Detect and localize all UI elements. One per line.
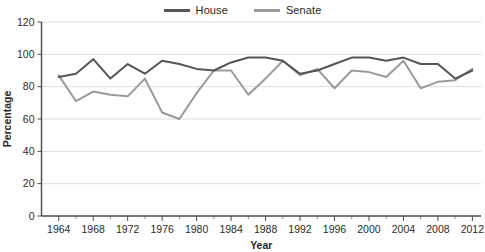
y-axis-title: Percentage (1, 91, 13, 148)
x-tick-label: 1964 (47, 223, 71, 235)
x-tick-label: 1992 (288, 223, 312, 235)
x-tick-label: 1976 (150, 223, 174, 235)
y-tick-label: 0 (29, 210, 35, 222)
series-line-house (59, 58, 473, 79)
x-tick-label: 2004 (392, 223, 416, 235)
series-lines (59, 58, 473, 119)
x-tick-label: 2012 (461, 223, 485, 235)
x-tick-label: 1980 (185, 223, 209, 235)
x-tick-label: 2000 (357, 223, 381, 235)
x-tick-label: 1972 (116, 223, 140, 235)
y-tick-label: 100 (17, 48, 35, 60)
y-tick-label: 120 (17, 16, 35, 28)
x-tick-label: 2008 (426, 223, 450, 235)
line-chart: House Senate 020406080100120 19641968197… (0, 0, 485, 252)
x-tick-label: 1968 (82, 223, 106, 235)
y-axis-tick-labels: 020406080100120 (17, 16, 35, 222)
y-tick-label: 20 (23, 177, 35, 189)
y-tick-label: 40 (23, 145, 35, 157)
x-axis-ticks (59, 216, 473, 221)
plot-area: 020406080100120 196419681972197619801984… (0, 0, 485, 252)
y-tick-label: 80 (23, 80, 35, 92)
x-tick-label: 1996 (323, 223, 347, 235)
x-axis-title: Year (250, 239, 272, 251)
x-axis-tick-labels: 1964196819721976198019841988199219962000… (47, 223, 484, 235)
x-tick-label: 1988 (254, 223, 278, 235)
gridlines (42, 22, 482, 184)
y-tick-label: 60 (23, 113, 35, 125)
x-tick-label: 1984 (219, 223, 243, 235)
